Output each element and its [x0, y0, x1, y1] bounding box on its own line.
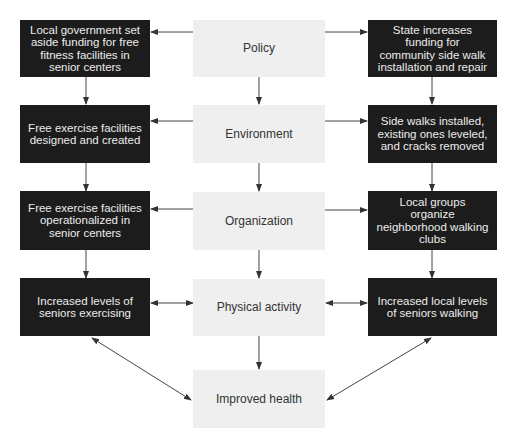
physical-activity-box: Physical activity	[193, 279, 325, 336]
right-box-2-label: Side walks installed, existing ones leve…	[376, 115, 489, 153]
left-box-1: Local government set aside funding for f…	[20, 20, 150, 77]
left-box-4-label: Increased levels of seniors exercising	[28, 295, 142, 320]
organization-label: Organization	[225, 215, 293, 228]
right-box-1-label: State increases funding for community si…	[376, 24, 489, 74]
improved-health-box: Improved health	[193, 370, 325, 428]
right-box-4-label: Increased local levels of seniors walkin…	[376, 295, 489, 320]
environment-box: Environment	[193, 105, 325, 163]
left-box-2-label: Free exercise facilities designed and cr…	[28, 122, 142, 147]
right-box-4: Increased local levels of seniors walkin…	[368, 278, 497, 336]
improved-health-label: Improved health	[216, 393, 302, 406]
physical-activity-label: Physical activity	[217, 301, 302, 314]
left-box-4: Increased levels of seniors exercising	[20, 278, 150, 336]
policy-label: Policy	[243, 42, 275, 55]
left-box-3-label: Free exercise facilities operationalized…	[28, 202, 142, 240]
right-box-2: Side walks installed, existing ones leve…	[368, 105, 497, 163]
left-box-2: Free exercise facilities designed and cr…	[20, 105, 150, 163]
right-box-3-label: Local groups organize neighborhood walki…	[376, 196, 489, 246]
organization-box: Organization	[193, 192, 325, 250]
left-box-3: Free exercise facilities operationalized…	[20, 191, 150, 250]
right-box-1: State increases funding for community si…	[368, 20, 497, 77]
right-box-3: Local groups organize neighborhood walki…	[368, 191, 497, 250]
environment-label: Environment	[225, 128, 292, 141]
policy-box: Policy	[193, 20, 325, 77]
left-box-1-label: Local government set aside funding for f…	[28, 24, 142, 74]
